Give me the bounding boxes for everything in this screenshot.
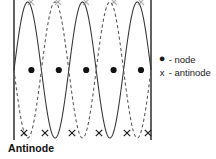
- wave-curves: [14, 2, 151, 138]
- legend-label-node: node: [174, 54, 195, 65]
- wave-diagram: [0, 0, 216, 159]
- node-marker-4: [111, 67, 117, 73]
- legend-item-node: ● - node: [158, 52, 216, 66]
- antinode-markers-top: [28, 0, 144, 5]
- legend: ● - node x - antinode: [158, 52, 216, 79]
- x-mark-icon: x: [158, 66, 166, 79]
- antinode-marker-bottom-2: [42, 130, 48, 136]
- antinode-marker-bottom-1: [21, 130, 27, 136]
- legend-label-antinode: antinode: [174, 67, 210, 78]
- antinode-caption: Antinode: [8, 142, 54, 154]
- legend-item-antinode: x - antinode: [158, 66, 216, 79]
- node-marker-5: [138, 67, 144, 73]
- node-marker-3: [83, 67, 89, 73]
- node-marker-1: [28, 67, 34, 73]
- node-marker-2: [56, 67, 62, 73]
- antinode-marker-bottom-3: [69, 130, 75, 136]
- antinode-marker-bottom-4: [96, 130, 102, 136]
- standing-wave-figure: ● - node x - antinode Antinode: [0, 0, 216, 159]
- node-markers: [28, 67, 144, 73]
- antinode-marker-top-4: [111, 0, 117, 5]
- antinode-marker-bottom-5: [124, 130, 130, 136]
- filled-circle-icon: ●: [158, 52, 166, 65]
- antinode-markers-bottom: [21, 130, 151, 136]
